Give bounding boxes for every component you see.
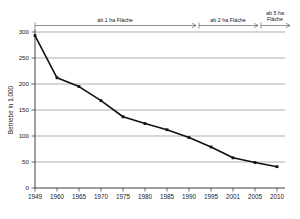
chart-container: ab 1 ha Fläche ab 2 ha Fläche ab 5 ha Fl… bbox=[0, 0, 300, 219]
y-label-300: 300 bbox=[19, 28, 30, 35]
annotation-bands: ab 1 ha Fläche ab 2 ha Fläche ab 5 ha Fl… bbox=[35, 10, 290, 29]
data-point-2010 bbox=[276, 165, 279, 168]
data-point-1949 bbox=[34, 34, 37, 37]
data-point-1970 bbox=[100, 99, 103, 102]
band-2-label: ab 2 ha Fläche bbox=[210, 17, 246, 23]
y-axis-title: Betriebe in 1.000 bbox=[7, 85, 14, 134]
data-point-2001 bbox=[232, 156, 235, 159]
y-label-200: 200 bbox=[19, 80, 30, 87]
x-label-1970: 1970 bbox=[94, 193, 109, 200]
y-label-150: 150 bbox=[19, 106, 30, 113]
data-point-1965 bbox=[78, 85, 81, 88]
x-tick-marks bbox=[35, 188, 277, 192]
data-point-2005 bbox=[254, 161, 257, 164]
x-label-1990: 1990 bbox=[182, 193, 197, 200]
x-label-1960: 1960 bbox=[50, 193, 65, 200]
band-3-label-line2: Fläche bbox=[267, 16, 283, 22]
data-point-1980 bbox=[144, 122, 147, 125]
data-point-1975 bbox=[122, 115, 125, 118]
data-point-1995 bbox=[210, 146, 213, 149]
y-label-0: 0 bbox=[26, 184, 30, 191]
data-point-1990 bbox=[188, 136, 191, 139]
y-tick-marks bbox=[32, 32, 36, 188]
x-label-2005: 2005 bbox=[248, 193, 263, 200]
x-label-2010: 2010 bbox=[270, 193, 285, 200]
x-label-1995: 1995 bbox=[204, 193, 219, 200]
series-line-betriebe bbox=[35, 36, 277, 167]
x-tick-labels: 1949 1960 1965 1970 1975 1980 1985 1990 … bbox=[28, 193, 285, 200]
x-label-1985: 1985 bbox=[160, 193, 175, 200]
gridlines bbox=[35, 32, 285, 162]
x-label-1975: 1975 bbox=[116, 193, 131, 200]
band-3-label-line1: ab 5 ha bbox=[266, 10, 284, 16]
x-label-1965: 1965 bbox=[72, 193, 87, 200]
y-label-250: 250 bbox=[19, 54, 30, 61]
line-chart: ab 1 ha Fläche ab 2 ha Fläche ab 5 ha Fl… bbox=[0, 0, 300, 219]
data-point-1960 bbox=[56, 76, 59, 79]
data-point-1985 bbox=[166, 128, 169, 131]
y-tick-labels: 300 250 200 150 100 50 0 bbox=[19, 28, 30, 191]
axes bbox=[35, 29, 285, 188]
band-1-label: ab 1 ha Fläche bbox=[97, 17, 133, 23]
y-label-50: 50 bbox=[22, 158, 29, 165]
x-label-2001: 2001 bbox=[226, 193, 241, 200]
x-label-1980: 1980 bbox=[138, 193, 153, 200]
y-label-100: 100 bbox=[19, 132, 30, 139]
series-markers bbox=[34, 34, 279, 168]
x-label-1949: 1949 bbox=[28, 193, 43, 200]
